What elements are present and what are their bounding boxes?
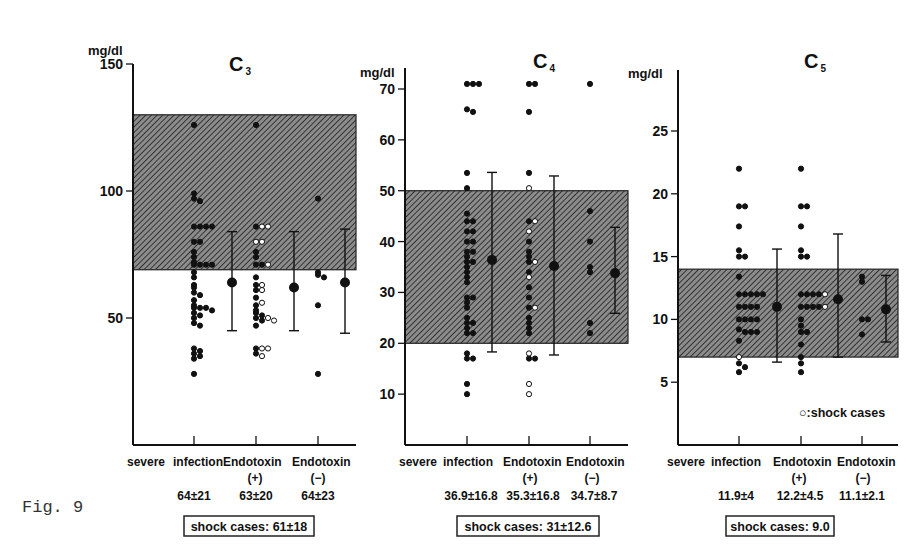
y-tick-label: 40 — [379, 234, 395, 250]
y-tick-label: 5 — [660, 374, 668, 390]
stat-value: 34.7±8.7 — [571, 489, 618, 503]
stat-value: 11.9±4 — [718, 489, 754, 503]
figure-label: Fig. 9 — [22, 498, 83, 517]
panel-c5: mg/dl C5 510152025 ○:shock cases severe … — [628, 50, 898, 536]
svg-text:shock cases: 9.0: shock cases: 9.0 — [730, 520, 829, 534]
legend-shock-cases: ○:shock cases — [799, 406, 885, 420]
category-sublabel: (+) — [792, 471, 807, 485]
category-label: infection — [173, 455, 223, 469]
y-tick-label: 10 — [652, 311, 668, 327]
y-tick-label: 30 — [379, 284, 395, 300]
panel-c3: mg/dl C3 50100150 severe infection Endot… — [88, 43, 356, 536]
y-tick-label: 10 — [379, 386, 395, 402]
y-axis-unit-label: mg/dl — [360, 65, 395, 80]
category-label: Endotoxin — [223, 455, 282, 469]
category-label: Endotoxin — [503, 455, 562, 469]
y-tick-label: 70 — [379, 81, 395, 97]
category-sublabel: (+) — [248, 471, 263, 485]
category-label: Endotoxin — [292, 455, 351, 469]
plot-area-c5: 510152025 — [652, 70, 898, 445]
plot-area-c4: 10203040506070 — [379, 68, 628, 445]
group-stats: 36.9±16.8 35.3±16.8 34.7±8.7 — [444, 489, 617, 503]
y-tick-label: 60 — [379, 132, 395, 148]
category-label: severe — [127, 455, 165, 469]
y-tick-label: 50 — [379, 183, 395, 199]
panel-title: C4 — [533, 50, 555, 74]
category-sublabel: (+) — [523, 471, 538, 485]
category-labels: severe infection Endotoxin (+) Endotoxin… — [667, 455, 896, 485]
y-tick-label: 20 — [379, 335, 395, 351]
y-tick-label: 100 — [100, 183, 124, 199]
group-stats: 11.9±4 12.2±4.5 11.1±2.1 — [718, 489, 885, 503]
stat-value: 63±20 — [239, 489, 273, 503]
shock-cases-box: shock cases: 31±12.6 — [457, 516, 599, 536]
category-label: severe — [667, 455, 705, 469]
stat-value: 12.2±4.5 — [777, 489, 824, 503]
panel-c4: mg/dl C4 10203040506070 severe infection… — [360, 50, 628, 536]
open-circle-icon: ○ — [799, 406, 807, 420]
panel-title: C5 — [804, 50, 826, 74]
stat-value: 64±23 — [301, 489, 335, 503]
y-tick-label: 150 — [100, 56, 124, 72]
category-labels: severe infection Endotoxin (+) Endotoxin… — [127, 455, 351, 485]
category-label: Endotoxin — [566, 455, 625, 469]
category-sublabel: (−) — [585, 471, 600, 485]
y-axis-unit-label: mg/dl — [628, 66, 663, 81]
category-label: infection — [443, 455, 493, 469]
normal-range-band — [133, 115, 356, 270]
svg-text:shock cases: 61±18: shock cases: 61±18 — [191, 520, 308, 534]
legend: ○:shock cases — [799, 406, 885, 420]
figure-9: mg/dl C3 50100150 severe infection Endot… — [0, 0, 922, 559]
shock-cases-box: shock cases: 61±18 — [184, 516, 314, 536]
complement-levels-chart: mg/dl C3 50100150 severe infection Endot… — [0, 0, 922, 559]
stat-value: 11.1±2.1 — [839, 489, 885, 503]
normal-range-band — [405, 191, 628, 344]
category-sublabel: (−) — [856, 471, 871, 485]
category-label: Endotoxin — [773, 455, 832, 469]
stat-value: 64±21 — [177, 489, 211, 503]
panel-title: C3 — [229, 53, 251, 77]
category-label: severe — [399, 455, 437, 469]
plot-area-c3: 50100150 — [100, 56, 356, 445]
stat-value: 35.3±16.8 — [506, 489, 560, 503]
group-stats: 64±21 63±20 64±23 — [177, 489, 335, 503]
category-label: infection — [711, 455, 761, 469]
y-tick-label: 20 — [652, 186, 668, 202]
category-label: Endotoxin — [837, 455, 896, 469]
y-tick-label: 15 — [652, 249, 668, 265]
shock-cases-box: shock cases: 9.0 — [726, 516, 834, 536]
y-tick-label: 25 — [652, 123, 668, 139]
svg-text:shock cases: 31±12.6: shock cases: 31±12.6 — [464, 520, 591, 534]
stat-value: 36.9±16.8 — [444, 489, 498, 503]
category-labels: severe infection Endotoxin (+) Endotoxin… — [399, 455, 625, 485]
category-sublabel: (−) — [311, 471, 326, 485]
y-tick-label: 50 — [107, 310, 123, 326]
